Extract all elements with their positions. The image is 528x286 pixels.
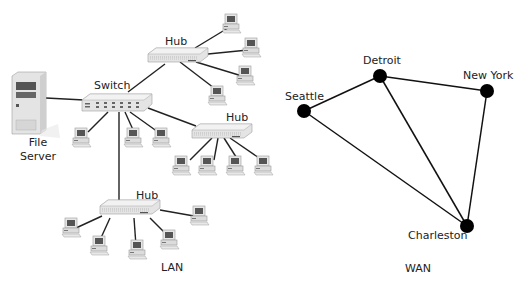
wan-caption: WAN [405,263,431,275]
file-server-label-line2: Server [14,151,62,163]
wan-links [304,76,487,226]
workstation-icon [124,128,143,147]
wan-label-new-york: New York [463,70,513,82]
hub-top-icon [148,48,208,62]
wan-label-detroit: Detroit [363,55,401,67]
workstation-icon [226,156,245,175]
switch-label: Switch [94,80,130,92]
wan-node-detroit [373,69,387,83]
workstation-icon [190,206,209,225]
workstation-icon [172,156,191,175]
workstation-icon [208,86,227,105]
hub-right-label: Hub [226,112,248,124]
file-server-label-line1: File [18,137,58,149]
wan-label-charleston: Charleston [408,230,468,242]
lan-caption: LAN [161,262,183,274]
hub-bottom-label: Hub [136,190,158,202]
hub-bottom-icon [100,200,160,214]
wan-label-seattle: Seattle [285,91,324,103]
file-server-icon [12,72,60,138]
workstation-icon [128,240,147,259]
workstation-icon [72,128,91,147]
workstation-icon [160,230,179,249]
wan-node-new-york [480,84,494,98]
workstation-icon [222,14,241,33]
workstation-icon [236,66,255,85]
hub-top-label: Hub [165,36,187,48]
network-diagram [0,0,528,286]
workstation-icon [254,156,273,175]
workstation-icon [152,128,171,147]
workstation-icon [242,38,261,57]
workstation-icon [90,236,109,255]
wan-node-seattle [297,104,311,118]
switch-icon [82,94,152,111]
hub-right-icon [192,124,252,138]
